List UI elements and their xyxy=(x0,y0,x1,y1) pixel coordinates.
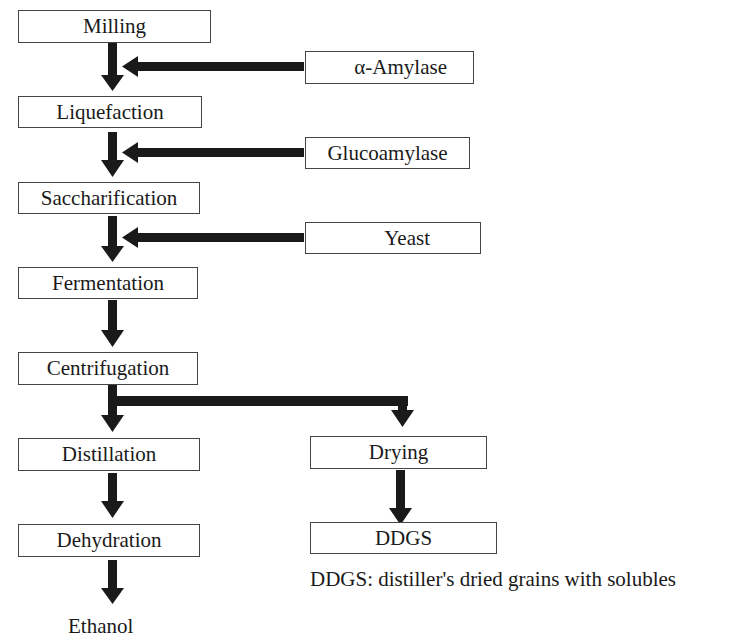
arrow-left-icon xyxy=(122,227,304,248)
arrow-down-icon xyxy=(101,216,124,262)
step-centrifugation: Centrifugation xyxy=(18,352,198,385)
step-label: Fermentation xyxy=(52,273,164,294)
step-ddgs: DDGS xyxy=(310,522,497,554)
arrow-down-icon xyxy=(101,560,124,604)
step-label: Distillation xyxy=(62,444,157,465)
step-label: DDGS xyxy=(375,528,432,549)
step-label: Liquefaction xyxy=(56,102,163,123)
branch-connector xyxy=(108,396,414,427)
step-dehydration: Dehydration xyxy=(18,524,200,557)
input-label: Glucoamylase xyxy=(327,143,447,164)
step-label: Saccharification xyxy=(41,188,177,209)
step-label: Dehydration xyxy=(57,530,162,551)
arrow-down-icon xyxy=(101,132,124,177)
input-label: α-Amylase xyxy=(354,57,447,78)
step-liquefaction: Liquefaction xyxy=(18,96,202,128)
step-fermentation: Fermentation xyxy=(18,267,198,299)
footnote-ddgs: DDGS: distiller's dried grains with solu… xyxy=(310,567,676,592)
step-saccharification: Saccharification xyxy=(18,182,200,214)
arrow-left-icon xyxy=(122,56,304,77)
input-glucoamylase: Glucoamylase xyxy=(305,137,470,169)
arrow-down-icon xyxy=(101,473,124,518)
step-label: Centrifugation xyxy=(47,358,169,379)
arrow-down-icon xyxy=(101,300,124,347)
step-label: Milling xyxy=(83,16,146,37)
output-ethanol: Ethanol xyxy=(68,614,133,639)
input-alpha-amylase: α-Amylase xyxy=(305,51,474,84)
arrow-down-icon xyxy=(101,385,124,432)
arrow-down-icon xyxy=(101,43,124,91)
arrow-down-icon xyxy=(389,470,412,525)
step-label: Drying xyxy=(369,442,429,463)
input-label: Yeast xyxy=(384,228,430,249)
input-yeast: Yeast xyxy=(305,222,481,254)
arrow-left-icon xyxy=(122,142,304,163)
step-milling: Milling xyxy=(18,10,211,43)
step-distillation: Distillation xyxy=(18,438,200,471)
step-drying: Drying xyxy=(310,436,487,469)
